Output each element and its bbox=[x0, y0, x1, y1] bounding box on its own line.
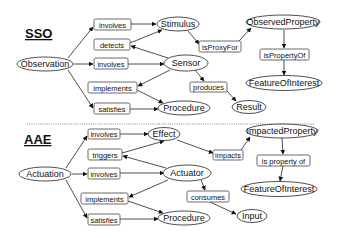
svg-text:involves: involves bbox=[99, 21, 126, 30]
sso-rel-satisfies: satisfies bbox=[94, 103, 130, 114]
sso-node-observation: Observation bbox=[17, 57, 73, 71]
svg-text:implements: implements bbox=[85, 195, 124, 204]
svg-text:ImpactedProperty: ImpactedProperty bbox=[246, 126, 318, 136]
aae-rel-consumes: consumes bbox=[187, 191, 229, 202]
ontology-diagram: SSO Observation bbox=[0, 0, 346, 238]
svg-text:Procedure: Procedure bbox=[163, 213, 205, 223]
aae-rel-implements: implements bbox=[81, 193, 128, 204]
aae-rel-satisfies: satisfies bbox=[88, 214, 120, 225]
svg-text:isProxyFor: isProxyFor bbox=[202, 43, 238, 52]
aae-node-impacted-property: ImpactedProperty bbox=[246, 124, 318, 138]
svg-text:FeatureOfInterest: FeatureOfInterest bbox=[244, 184, 315, 194]
svg-text:satisfies: satisfies bbox=[90, 216, 117, 225]
sso-rel-involves-2: involves bbox=[94, 58, 128, 69]
aae-rel-impacts: impacts bbox=[213, 150, 243, 160]
sso-node-feature-of-interest: FeatureOfInterest bbox=[246, 76, 322, 91]
svg-text:Stimulus: Stimulus bbox=[161, 19, 196, 29]
svg-text:Observation: Observation bbox=[21, 59, 70, 69]
aae-node-input: Input bbox=[237, 210, 267, 223]
svg-text:Procedure: Procedure bbox=[163, 103, 205, 113]
svg-text:Effect: Effect bbox=[153, 129, 176, 139]
sso-rel-produces: produces bbox=[190, 82, 227, 92]
aae-node-feature-of-interest: FeatureOfInterest bbox=[241, 182, 317, 197]
svg-text:involves: involves bbox=[90, 130, 117, 139]
svg-text:isPropertyOf: isPropertyOf bbox=[264, 51, 307, 60]
aae-rel-involves-2: involves bbox=[88, 168, 120, 179]
svg-text:Actuator: Actuator bbox=[170, 168, 204, 178]
aae-title: AAE bbox=[24, 132, 52, 147]
svg-text:Actuation: Actuation bbox=[26, 169, 64, 179]
aae-node-effect: Effect bbox=[148, 128, 180, 141]
aae-rel-triggers: triggers bbox=[88, 149, 122, 160]
aae-node-actuation: Actuation bbox=[19, 167, 71, 181]
svg-text:impacts: impacts bbox=[215, 151, 241, 160]
sso-node-observed-property: ObservedProperty bbox=[246, 15, 320, 29]
sso-node-sensor: Sensor bbox=[164, 55, 208, 71]
svg-text:implements: implements bbox=[93, 84, 132, 93]
sso-node-stimulus: Stimulus bbox=[157, 17, 199, 31]
svg-text:Input: Input bbox=[242, 211, 263, 221]
svg-text:triggers: triggers bbox=[92, 151, 117, 160]
aae-node-actuator: Actuator bbox=[163, 165, 211, 181]
sso-node-result: Result bbox=[232, 101, 266, 114]
aae-rel-involves-1: involves bbox=[88, 129, 120, 139]
sso-rel-is-proxy-for: isProxyFor bbox=[199, 41, 241, 52]
svg-text:is property of: is property of bbox=[262, 157, 306, 166]
sso-rel-implements: implements bbox=[88, 82, 137, 93]
svg-text:Sensor: Sensor bbox=[172, 58, 201, 68]
svg-text:satisfies: satisfies bbox=[98, 105, 125, 114]
svg-text:FeatureOfInterest: FeatureOfInterest bbox=[249, 78, 320, 88]
sso-rel-is-property-of: isPropertyOf bbox=[260, 49, 309, 60]
svg-text:involves: involves bbox=[90, 170, 117, 179]
svg-text:consumes: consumes bbox=[191, 193, 225, 202]
svg-text:Result: Result bbox=[236, 102, 262, 112]
sso-rel-detects: detects bbox=[94, 39, 130, 50]
sso-node-procedure: Procedure bbox=[158, 101, 210, 115]
sso-rel-involves-1: involves bbox=[94, 19, 131, 30]
svg-text:produces: produces bbox=[193, 83, 224, 92]
aae-rel-is-property-of: is property of bbox=[257, 155, 310, 166]
sso-title: SSO bbox=[25, 26, 52, 41]
aae-node-procedure: Procedure bbox=[158, 211, 210, 225]
svg-text:involves: involves bbox=[97, 60, 124, 69]
svg-text:detects: detects bbox=[100, 41, 124, 50]
svg-text:ObservedProperty: ObservedProperty bbox=[246, 17, 320, 27]
